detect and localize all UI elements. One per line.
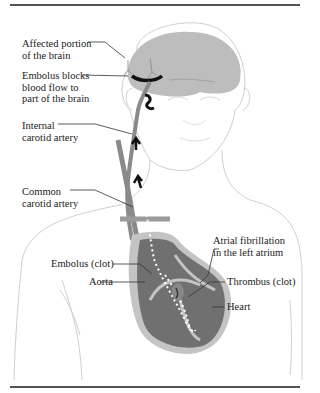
label-embolus-blocks: Embolus blocks blood flow to part of the… [22,70,89,105]
flow-arrow-lower [134,176,142,188]
brain [128,32,241,97]
label-embolus-clot: Embolus (clot) [51,258,114,270]
label-affected-portion: Affected portion of the brain [22,38,92,61]
label-internal-carotid: Internal carotid artery [22,120,78,143]
label-thrombus: Thrombus (clot) [227,276,296,288]
label-aorta: Aorta [89,276,113,288]
traveling-embolus [145,95,154,109]
label-atrial-fibrillation: Atrial fibrillation in the left atrium [213,235,285,258]
label-heart: Heart [227,301,250,313]
label-common-carotid: Common carotid artery [22,186,78,209]
